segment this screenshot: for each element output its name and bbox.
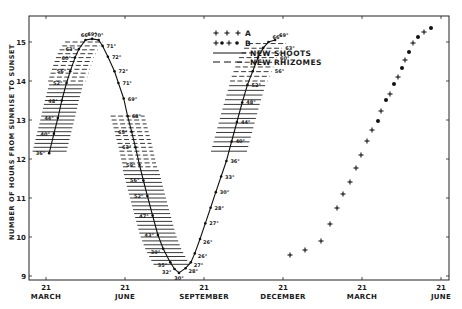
temperature-label: 72° — [118, 68, 128, 74]
temperature-label: 33° — [225, 174, 235, 180]
chart: 9101112131415 21MARCH21JUNE21SEPTEMBER21… — [0, 0, 462, 309]
y-axis-label: NUMBER OF HOURS FROM SUNRISE TO SUNSET — [8, 44, 16, 240]
data-point — [169, 261, 172, 264]
temperature-label: 52° — [53, 80, 63, 86]
temperature-label: 36° — [230, 158, 240, 164]
temperature-label: 65° — [118, 129, 128, 135]
temperature-label: 63° — [122, 144, 132, 150]
data-point — [236, 121, 239, 124]
temperature-label: 47° — [139, 213, 149, 219]
data-point — [134, 146, 137, 149]
data-point — [122, 97, 125, 100]
x-tick-month: MARCH — [31, 293, 61, 301]
data-point — [65, 82, 68, 85]
data-point — [199, 238, 202, 241]
data-point — [246, 84, 249, 87]
temperature-label: 27° — [209, 220, 219, 226]
temperature-label: 39° — [151, 249, 161, 255]
y-tick-label: 9 — [21, 273, 26, 281]
temperature-label: 26° — [198, 253, 208, 259]
x-tick-month: SEPTEMBER — [179, 293, 229, 301]
data-point — [142, 179, 145, 182]
temperature-label: 44° — [241, 119, 251, 125]
x-tick-day: 21 — [436, 284, 446, 292]
x-tick-day: 21 — [199, 284, 209, 292]
temperature-label: 69° — [279, 32, 289, 38]
data-point — [274, 39, 277, 42]
data-point — [173, 268, 176, 271]
legend-label-b: B — [245, 39, 251, 48]
temperature-label: 35° — [158, 262, 168, 268]
data-point — [230, 140, 233, 143]
data-point — [74, 56, 77, 59]
temperature-label: 30° — [174, 275, 184, 281]
plot-frame — [29, 16, 449, 280]
temperature-label: 71° — [122, 80, 132, 86]
daylength-curve: 36°40°44°48°52°56°60°63°66°69°70°71°72°7… — [36, 31, 296, 281]
temperature-label: 70° — [94, 32, 104, 38]
temperature-label: 52° — [251, 82, 261, 88]
temperature-label: 60° — [61, 55, 71, 61]
legend-label-new-shoots: NEW SHOOTS — [250, 49, 311, 58]
temperature-label: 56° — [130, 177, 140, 183]
y-tick-label: 10 — [16, 234, 26, 242]
temperature-label: 40° — [236, 138, 246, 144]
temperature-label: 44° — [44, 115, 54, 121]
temperature-label: 69° — [128, 96, 138, 102]
y-tick-label: 14 — [16, 78, 26, 86]
data-point — [225, 160, 228, 163]
temperature-label: 36° — [36, 150, 46, 156]
temperature-label: 27° — [194, 262, 204, 268]
x-tick-day: 21 — [278, 284, 288, 292]
data-point — [151, 214, 154, 217]
temperature-label: 28° — [189, 268, 199, 274]
data-point — [61, 99, 64, 102]
data-point — [220, 175, 223, 178]
y-tick-label: 13 — [16, 117, 26, 125]
temperature-label: 40° — [40, 131, 50, 137]
data-point — [126, 115, 129, 118]
temperature-label: 72° — [112, 54, 122, 60]
temperature-label: 30° — [220, 189, 230, 195]
x-tick-month: JUNE — [430, 293, 451, 301]
y-tick-label: 12 — [16, 156, 26, 164]
data-point — [101, 45, 104, 48]
temperature-label: 28° — [215, 205, 225, 211]
data-point — [204, 222, 207, 225]
x-tick-day: 21 — [120, 284, 130, 292]
data-point — [69, 70, 72, 73]
data-point — [107, 56, 110, 59]
x-tick-month: MARCH — [347, 293, 377, 301]
temperature-label: 71° — [107, 43, 117, 49]
data-point — [78, 48, 81, 51]
data-point — [48, 152, 51, 155]
legend-label-a: A — [245, 29, 251, 38]
data-point — [113, 70, 116, 73]
data-point — [267, 41, 270, 44]
temperature-label: 32° — [162, 269, 172, 275]
x-tick-month: DECEMBER — [260, 293, 306, 301]
data-point — [146, 195, 149, 198]
data-point — [157, 234, 160, 237]
data-point — [193, 252, 196, 255]
data-point — [209, 206, 212, 209]
data-point — [130, 130, 133, 133]
data-point — [84, 39, 87, 42]
y-tick-label: 11 — [16, 195, 26, 203]
data-point — [215, 191, 218, 194]
temperature-label: 63° — [65, 46, 75, 52]
data-point — [251, 70, 254, 73]
temperature-label: 56° — [57, 68, 67, 74]
temperature-label: 48° — [48, 98, 58, 104]
data-point — [241, 101, 244, 104]
x-tick-day: 21 — [357, 284, 367, 292]
data-point — [138, 164, 141, 167]
temperature-label: 48° — [246, 99, 256, 105]
data-point — [57, 117, 60, 120]
temperature-label: 52° — [134, 193, 144, 199]
bar-markers — [33, 42, 286, 264]
x-axis: 21MARCH21JUNE21SEPTEMBER21DECEMBER21MARC… — [31, 16, 451, 301]
data-point — [184, 267, 187, 270]
y-tick-label: 15 — [16, 39, 26, 47]
temperature-label: 56° — [275, 68, 285, 74]
